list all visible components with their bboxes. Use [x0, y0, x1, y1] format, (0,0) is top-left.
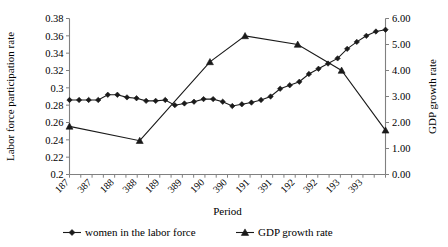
y-axis-right-tick-label: 0.00 — [392, 169, 410, 180]
data-point-gdp-growth-rate — [338, 67, 345, 73]
chart-svg: 0.20.220.240.260.280.30.320.340.360.380.… — [0, 0, 448, 247]
data-point-women-labor-force — [210, 96, 215, 101]
x-axis-tick-label: 389 — [165, 177, 183, 195]
x-axis-tick-label: 191 — [233, 177, 251, 195]
data-point-women-labor-force — [201, 96, 206, 101]
x-axis-tick-label: 190 — [188, 177, 206, 195]
y-axis-right-tick-label: 6.00 — [392, 13, 410, 24]
chart-axes — [66, 19, 389, 178]
y-axis-left-tick-label: 0.22 — [45, 152, 63, 163]
y-axis-right-tick-label: 5.00 — [392, 39, 410, 50]
data-point-women-labor-force — [124, 95, 129, 100]
data-point-women-labor-force — [105, 92, 110, 97]
x-axis-tick-label: 192 — [278, 177, 296, 195]
y-axis-left-title: Labor force participation rate — [4, 32, 16, 161]
data-point-women-labor-force — [239, 102, 244, 107]
y-axis-left-tick-label: 0.38 — [45, 13, 63, 24]
y-axis-right-tick-label: 3.00 — [392, 91, 410, 102]
x-axis-tick-label: 392 — [301, 177, 319, 195]
data-point-women-labor-force — [134, 96, 139, 101]
data-point-women-labor-force — [86, 97, 91, 102]
x-axis-title: Period — [213, 205, 242, 217]
data-point-gdp-growth-rate — [66, 123, 73, 129]
x-axis-tick-label: 387 — [75, 177, 93, 195]
data-point-women-labor-force — [153, 98, 158, 103]
data-point-women-labor-force — [287, 83, 292, 88]
data-point-women-labor-force — [115, 92, 120, 97]
x-axis-tick-label: 193 — [323, 177, 341, 195]
y-axis-left-tick-label: 0.34 — [45, 48, 64, 59]
data-point-women-labor-force — [258, 97, 263, 102]
data-point-women-labor-force — [316, 66, 321, 71]
legend-marker-diamond — [69, 230, 75, 236]
data-point-women-labor-force — [364, 33, 369, 38]
chart-figure: 0.20.220.240.260.280.30.320.340.360.380.… — [0, 0, 448, 247]
x-axis-tick-label: 391 — [256, 177, 274, 195]
legend-label-women-labor-force: women in the labor force — [85, 226, 196, 238]
data-point-women-labor-force — [230, 103, 235, 108]
data-point-gdp-growth-rate — [242, 33, 249, 39]
data-point-women-labor-force — [182, 101, 187, 106]
x-axis-tick-label: 390 — [211, 177, 229, 195]
chart-series — [66, 27, 389, 143]
y-axis-right-title: GDP growth rate — [426, 59, 438, 134]
y-axis-left-tick-label: 0.36 — [45, 31, 63, 42]
y-axis-left-tick-label: 0.3 — [50, 83, 63, 94]
x-axis-tick-label: 188 — [98, 177, 116, 195]
y-axis-left-tick-label: 0.24 — [45, 135, 64, 146]
chart-legend: women in the labor forceGDP growth rate — [63, 226, 333, 238]
y-axis-right-tick-label: 4.00 — [392, 65, 410, 76]
y-axis-right-tick-label: 1.00 — [392, 143, 410, 154]
data-point-women-labor-force — [191, 99, 196, 104]
y-axis-left-tick-label: 0.32 — [45, 65, 63, 76]
x-axis-tick-label: 388 — [120, 177, 138, 195]
data-point-women-labor-force — [163, 97, 168, 102]
data-point-women-labor-force — [67, 97, 72, 102]
y-axis-left-tick-label: 0.28 — [45, 100, 63, 111]
data-point-women-labor-force — [96, 97, 101, 102]
data-point-women-labor-force — [383, 27, 388, 32]
data-point-women-labor-force — [373, 29, 378, 34]
legend-label-gdp-growth-rate: GDP growth rate — [258, 226, 333, 238]
series-line-gdp-growth-rate — [70, 36, 386, 141]
data-point-women-labor-force — [220, 99, 225, 104]
data-point-women-labor-force — [76, 97, 81, 102]
data-point-women-labor-force — [143, 98, 148, 103]
data-point-women-labor-force — [249, 100, 254, 105]
x-axis-tick-label: 189 — [143, 177, 161, 195]
y-axis-right-tick-label: 2.00 — [392, 117, 410, 128]
y-axis-left-tick-label: 0.26 — [45, 117, 63, 128]
x-axis-tick-label: 393 — [346, 177, 364, 195]
